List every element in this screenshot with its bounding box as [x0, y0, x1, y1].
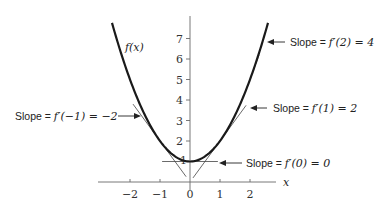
arrow-left-icon	[267, 39, 274, 45]
y-tick-label: 3	[176, 115, 183, 128]
y-tick-label: 7	[176, 33, 183, 46]
x-tick-label: 1	[217, 188, 224, 201]
x-tick-label: −2	[122, 188, 138, 201]
x-tick-label: 0	[187, 188, 194, 201]
arrow-left-icon	[250, 105, 257, 111]
callout-slope-2: Slope = f′(2) = 4	[267, 36, 374, 49]
tangent-lines	[133, 55, 259, 178]
x-tick-label: −1	[152, 188, 168, 201]
y-tick-label: 5	[176, 74, 183, 87]
callout-slope-0: Slope = f′(0) = 0	[219, 157, 330, 170]
x-axis-label: x	[283, 176, 290, 189]
y-tick-label: 4	[176, 94, 183, 107]
derivative-slope-diagram: −2−1012 1234567 x f(x) Slope = f′(−1) = …	[0, 0, 380, 211]
y-tick-label: 2	[176, 135, 183, 148]
y-tick-label: 6	[176, 53, 183, 66]
callout-text: Slope = f′(0) = 0	[246, 157, 330, 170]
callout-text: Slope = f′(2) = 4	[290, 36, 374, 49]
y-axis-ticks: 1234567	[176, 33, 190, 167]
callout-slope-neg1: Slope = f′(−1) = −2	[15, 110, 141, 123]
callout-slope-1: Slope = f′(1) = 2	[250, 102, 357, 115]
arrow-left-icon	[219, 160, 226, 166]
callout-text: Slope = f′(−1) = −2	[15, 110, 118, 123]
callout-text: Slope = f′(1) = 2	[273, 102, 357, 115]
function-label: f(x)	[124, 41, 144, 54]
x-tick-label: 2	[247, 188, 254, 201]
